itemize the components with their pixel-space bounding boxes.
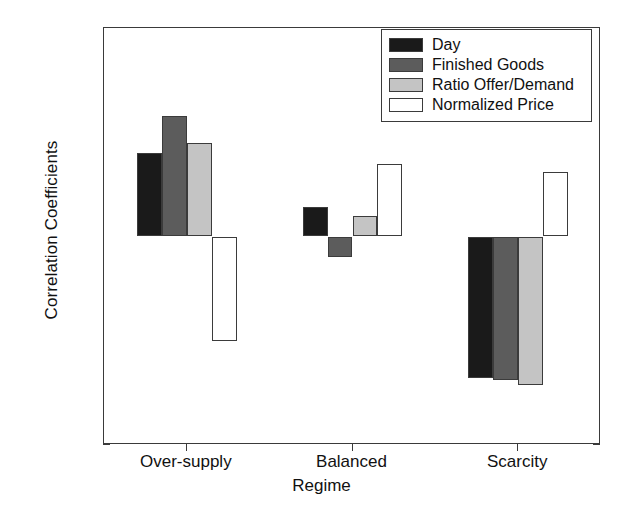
legend-item: Finished Goods	[389, 55, 584, 75]
y-axis-title: Correlation Coefficients	[42, 30, 62, 430]
legend-label: Finished Goods	[432, 57, 544, 73]
x-axis-title: Regime	[0, 476, 643, 496]
x-tick-label-over-supply: Over-supply	[96, 452, 276, 472]
legend-item: Day	[389, 35, 584, 55]
bar-scarcity-ratio-offer-demand	[518, 237, 543, 385]
legend-swatch-icon	[389, 98, 423, 112]
chart-legend: DayFinished GoodsRatio Offer/DemandNorma…	[381, 29, 592, 122]
x-tick-mark	[352, 444, 353, 451]
x-tick-label-balanced: Balanced	[262, 452, 442, 472]
legend-item: Ratio Offer/Demand	[389, 75, 584, 95]
bar-over-supply-finished-goods	[162, 116, 187, 237]
y-tick-mark	[103, 444, 110, 445]
y-tick-mark	[593, 444, 600, 445]
x-tick-mark	[186, 444, 187, 451]
bar-balanced-normalized-price	[377, 164, 402, 237]
x-tick-mark	[517, 444, 518, 451]
chart-figure: Correlation Coefficients 10.80.60.40.20-…	[0, 0, 643, 509]
bar-over-supply-normalized-price	[212, 237, 237, 341]
bar-scarcity-finished-goods	[493, 237, 518, 381]
legend-item: Normalized Price	[389, 95, 584, 115]
bar-over-supply-day	[137, 153, 162, 236]
legend-swatch-icon	[389, 78, 423, 92]
bar-over-supply-ratio-offer-demand	[187, 143, 212, 237]
legend-label: Day	[432, 37, 460, 53]
legend-label: Normalized Price	[432, 97, 554, 113]
bar-scarcity-normalized-price	[543, 172, 568, 237]
legend-swatch-icon	[389, 58, 423, 72]
bar-scarcity-day	[468, 237, 493, 379]
legend-swatch-icon	[389, 38, 423, 52]
x-tick-label-scarcity: Scarcity	[427, 452, 607, 472]
bar-balanced-day	[303, 207, 328, 236]
legend-label: Ratio Offer/Demand	[432, 77, 574, 93]
bar-balanced-finished-goods	[328, 237, 353, 258]
bar-balanced-ratio-offer-demand	[353, 216, 378, 237]
